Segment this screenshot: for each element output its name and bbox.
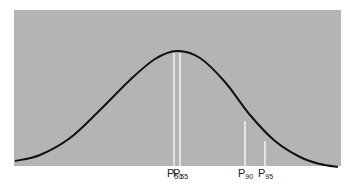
percentile-label-p95: P95 <box>258 168 273 180</box>
percentile-label-p55: P55 <box>173 168 188 180</box>
percentile-label-p90: P90 <box>238 168 253 180</box>
distribution-chart <box>0 0 355 188</box>
